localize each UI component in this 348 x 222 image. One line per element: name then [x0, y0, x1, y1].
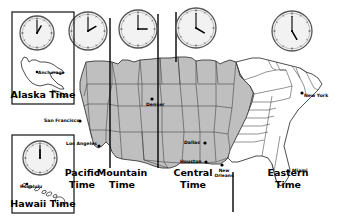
hawaii-clock	[23, 141, 57, 175]
city-dot-dallas	[203, 141, 206, 144]
city-dot-denver	[150, 97, 153, 100]
clock-center	[36, 32, 38, 34]
zone-label-pacific: Time	[69, 179, 95, 190]
alaska-city-label: Anchorage	[38, 70, 65, 75]
alaska-clock	[20, 16, 54, 50]
hawaii-city-label: Honolulu	[20, 184, 42, 189]
city-label-new-york: New York	[304, 93, 329, 98]
clock-center	[195, 27, 197, 29]
shaded-zones-fill	[80, 57, 254, 168]
alaska-caption: Alaska Time	[11, 89, 76, 100]
clock-center	[39, 157, 41, 159]
pacific-clock	[69, 12, 107, 50]
clock-center	[291, 30, 293, 32]
clock-center	[137, 28, 139, 30]
hawaii-city-dot	[26, 183, 29, 186]
city-dot-new-orleans	[220, 163, 223, 166]
zone-label-eastern: Eastern	[268, 167, 309, 178]
central-clock	[176, 8, 216, 48]
map-canvas: San FranciscoLos AngelesDenverDallasHous…	[0, 0, 348, 222]
city-label-new-orleans: Orleans	[214, 173, 233, 178]
zone-labels: PacificTimeMountainTimeCentralTimeEaster…	[65, 167, 309, 190]
eastern-clock	[272, 11, 312, 51]
time-zone-map-figure: San FranciscoLos AngelesDenverDallasHous…	[0, 0, 348, 222]
zone-label-central: Time	[180, 179, 206, 190]
zone-label-mountain: Mountain	[97, 167, 148, 178]
alaska-city-dot	[36, 71, 39, 74]
city-dot-los-angeles	[97, 144, 100, 147]
city-label-los-angeles: Los Angeles	[66, 141, 97, 146]
city-dot-houston	[204, 160, 207, 163]
zone-label-mountain: Time	[109, 179, 135, 190]
inset-captions: Alaska TimeAnchorageHawaii TimeHonolulu	[10, 70, 75, 209]
clock-center	[87, 30, 89, 32]
city-label-dallas: Dallas	[184, 140, 200, 145]
zone-label-eastern: Time	[275, 179, 301, 190]
zone-label-pacific: Pacific	[65, 167, 100, 178]
zone-label-central: Central	[173, 167, 212, 178]
city-label-san-francisco: San Francisco	[44, 118, 80, 123]
hawaii-caption: Hawaii Time	[10, 198, 75, 209]
city-label-denver: Denver	[146, 102, 165, 107]
mountain-clock	[119, 10, 157, 48]
city-label-houston: Houston	[180, 159, 202, 164]
